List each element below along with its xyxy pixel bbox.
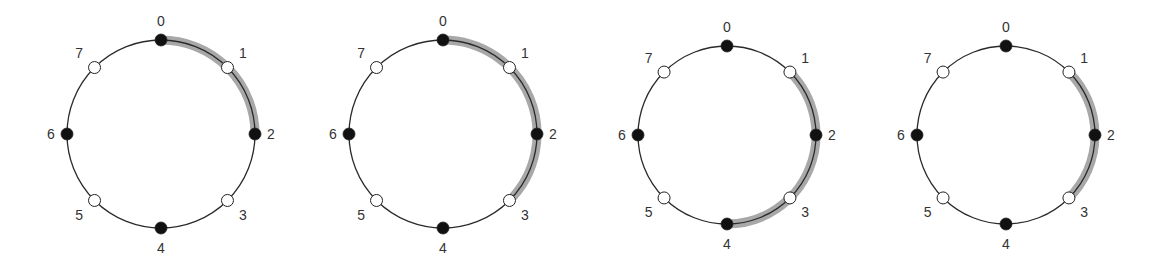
hollow-node — [89, 194, 101, 206]
hollow-node — [1063, 192, 1075, 204]
node-label: 2 — [549, 126, 557, 142]
node-label: 7 — [924, 50, 932, 66]
ring-diagram-4: 01234567 — [897, 19, 1115, 252]
highlighted-arc — [727, 72, 816, 224]
filled-node — [531, 128, 543, 140]
hollow-node — [503, 62, 515, 74]
node-label: 4 — [439, 240, 447, 256]
hollow-node — [221, 62, 233, 74]
node-label: 7 — [75, 45, 83, 61]
ring-diagram-2: 01234567 — [329, 13, 557, 256]
hollow-node — [937, 192, 949, 204]
hollow-node — [784, 192, 796, 204]
filled-node — [721, 40, 733, 52]
node-label: 1 — [239, 45, 247, 61]
filled-node — [1000, 218, 1012, 230]
node-label: 1 — [801, 50, 809, 66]
node-label: 3 — [801, 204, 809, 220]
node-label: 2 — [1107, 127, 1115, 143]
filled-node — [155, 222, 167, 234]
filled-node — [61, 128, 73, 140]
node-label: 3 — [239, 207, 247, 223]
node-label: 2 — [267, 126, 275, 142]
filled-node — [155, 34, 167, 46]
node-label: 6 — [47, 126, 55, 142]
node-label: 6 — [329, 126, 337, 142]
hollow-node — [371, 62, 383, 74]
hollow-node — [89, 62, 101, 74]
node-label: 3 — [521, 207, 529, 223]
filled-node — [437, 34, 449, 46]
node-label: 2 — [828, 127, 836, 143]
node-label: 6 — [618, 127, 626, 143]
node-label: 4 — [723, 236, 731, 252]
hollow-node — [658, 66, 670, 78]
filled-node — [1089, 129, 1101, 141]
node-label: 0 — [439, 13, 447, 29]
node-label: 4 — [157, 240, 165, 256]
hollow-node — [503, 194, 515, 206]
node-label: 7 — [645, 50, 653, 66]
node-label: 6 — [897, 127, 905, 143]
node-label: 3 — [1080, 204, 1088, 220]
filled-node — [911, 129, 923, 141]
hollow-node — [1063, 66, 1075, 78]
filled-node — [810, 129, 822, 141]
filled-node — [249, 128, 261, 140]
hollow-node — [221, 194, 233, 206]
filled-node — [632, 129, 644, 141]
node-label: 0 — [157, 13, 165, 29]
hollow-node — [937, 66, 949, 78]
hollow-node — [784, 66, 796, 78]
node-label: 1 — [1080, 50, 1088, 66]
node-label: 7 — [357, 45, 365, 61]
filled-node — [1000, 40, 1012, 52]
filled-node — [721, 218, 733, 230]
highlighted-arc — [443, 40, 537, 200]
ring-diagram-1: 01234567 — [47, 13, 275, 256]
node-label: 5 — [645, 204, 653, 220]
filled-node — [437, 222, 449, 234]
ring-diagrams-figure: 01234567 01234567 01234567 01234567 — [0, 0, 1153, 269]
ring-diagram-3: 01234567 — [618, 19, 836, 252]
node-label: 5 — [75, 207, 83, 223]
filled-node — [343, 128, 355, 140]
hollow-node — [658, 192, 670, 204]
node-label: 0 — [1002, 19, 1010, 35]
node-label: 5 — [357, 207, 365, 223]
node-label: 4 — [1002, 236, 1010, 252]
node-label: 5 — [924, 204, 932, 220]
hollow-node — [371, 194, 383, 206]
node-label: 0 — [723, 19, 731, 35]
node-label: 1 — [521, 45, 529, 61]
